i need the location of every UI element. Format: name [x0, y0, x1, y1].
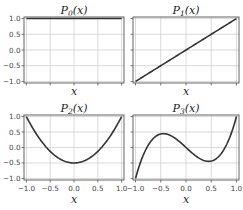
x-tick-label: 0.0: [68, 184, 80, 193]
x-tick-label: 0.0: [180, 184, 192, 193]
x-tick-label: 1.0: [231, 184, 243, 193]
x-tick-label: 0.5: [92, 184, 103, 193]
x-axis-label: x: [183, 193, 190, 206]
y-tick-label: −0.5: [3, 61, 20, 70]
subplot-3: −1.0−0.50.00.51.0P3(x)x: [127, 102, 243, 206]
y-tick-label: −1.0: [3, 174, 21, 183]
x-axis-label: x: [183, 85, 190, 98]
x-tick-label: −0.5: [41, 184, 58, 193]
y-tick-label: 1.0: [9, 112, 21, 121]
x-tick-label: 0.5: [206, 184, 217, 193]
x-axis-label: x: [71, 193, 78, 206]
x-tick-label: −1.0: [127, 184, 145, 193]
y-tick-label: 0.0: [9, 143, 21, 152]
legendre-polynomials-chart: 1.00.50.0−0.5−1.0P0(x)xP1(x)x1.00.50.0−0…: [0, 0, 243, 210]
y-tick-label: 0.5: [9, 30, 20, 39]
y-tick-label: 1.0: [9, 14, 21, 23]
x-axis-label: x: [71, 85, 78, 98]
x-tick-label: −1.0: [18, 184, 36, 193]
y-tick-label: −1.0: [3, 77, 21, 86]
subplot-title: P3(x): [172, 102, 200, 116]
y-tick-label: 0.5: [9, 128, 20, 137]
subplot-0: 1.00.50.0−0.5−1.0P0(x)x: [3, 4, 124, 98]
subplot-1: P1(x)x: [131, 4, 240, 98]
x-tick-label: −0.5: [152, 184, 169, 193]
subplot-2: 1.00.50.0−0.5−1.0−1.0−0.50.00.51.0P2(x)x: [3, 102, 128, 206]
y-tick-label: −0.5: [3, 158, 20, 167]
subplot-title: P1(x): [172, 4, 200, 18]
subplot-title: P0(x): [60, 4, 88, 18]
subplot-title: P2(x): [60, 102, 88, 116]
y-tick-label: 0.0: [9, 46, 21, 55]
